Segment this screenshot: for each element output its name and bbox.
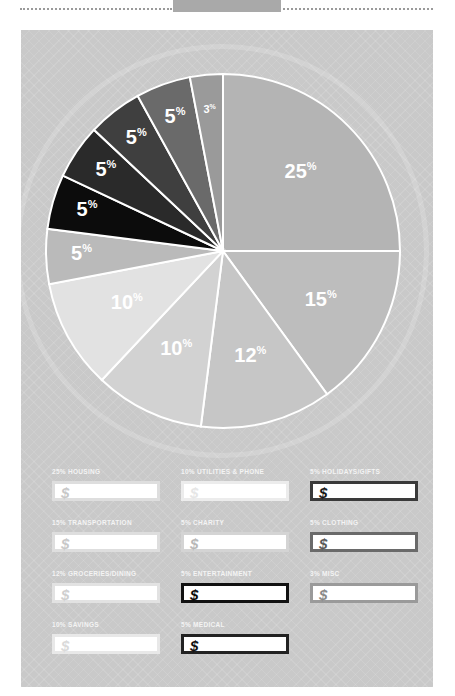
budget-field-holidays-gifts: 5% Holidays/Gifts$ [310, 467, 418, 501]
amount-input[interactable]: $ [181, 481, 289, 501]
amount-input[interactable]: $ [310, 532, 418, 552]
amount-input[interactable]: $ [310, 481, 418, 501]
budget-field-housing: 25% Housing$ [52, 467, 160, 501]
amount-input[interactable]: $ [52, 634, 160, 654]
budget-field-misc: 3% Misc$ [310, 569, 418, 603]
budget-field-groceries-dining: 12% Groceries/Dining$ [52, 569, 160, 603]
header-tab [173, 0, 281, 12]
field-label: 12% Groceries/Dining [52, 569, 160, 579]
budget-field-utilities-phone: 10% Utilities & Phone$ [181, 467, 289, 501]
header-dotted-rule-right [283, 8, 433, 10]
budget-field-charity: 5% Charity$ [181, 518, 289, 552]
dollar-sign-icon: $ [61, 483, 69, 503]
field-label: 15% Transportation [52, 518, 160, 528]
amount-input[interactable]: $ [181, 634, 289, 654]
dollar-sign-icon: $ [190, 585, 198, 605]
budget-field-entertainment: 5% Entertainment$ [181, 569, 289, 603]
field-label: 5% Medical [181, 620, 289, 630]
field-label: 5% Charity [181, 518, 289, 528]
dollar-sign-icon: $ [61, 636, 69, 656]
budget-field-medical: 5% Medical$ [181, 620, 289, 654]
dollar-sign-icon: $ [190, 636, 198, 656]
header-dotted-rule-left [20, 8, 172, 10]
amount-input[interactable]: $ [52, 532, 160, 552]
dollar-sign-icon: $ [319, 534, 327, 554]
budget-panel: 25%15%12%10%10%5%5%5%5%5%3% 25% Housing$… [21, 30, 433, 687]
amount-input[interactable]: $ [181, 583, 289, 603]
dollar-sign-icon: $ [319, 483, 327, 503]
field-label: 5% Holidays/Gifts [310, 467, 418, 477]
budget-field-clothing: 5% Clothing$ [310, 518, 418, 552]
budget-field-transportation: 15% Transportation$ [52, 518, 160, 552]
budget-pie-chart: 25%15%12%10%10%5%5%5%5%5%3% [21, 30, 433, 450]
dollar-sign-icon: $ [190, 534, 198, 554]
field-label: 5% Entertainment [181, 569, 289, 579]
dollar-sign-icon: $ [61, 534, 69, 554]
dollar-sign-icon: $ [190, 483, 198, 503]
amount-input[interactable]: $ [310, 583, 418, 603]
field-label: 10% Savings [52, 620, 160, 630]
dollar-sign-icon: $ [61, 585, 69, 605]
amount-input[interactable]: $ [52, 583, 160, 603]
field-label: 3% Misc [310, 569, 418, 579]
amount-input[interactable]: $ [181, 532, 289, 552]
budget-field-savings: 10% Savings$ [52, 620, 160, 654]
dollar-sign-icon: $ [319, 585, 327, 605]
field-label: 25% Housing [52, 467, 160, 477]
amount-input[interactable]: $ [52, 481, 160, 501]
field-label: 10% Utilities & Phone [181, 467, 289, 477]
field-label: 5% Clothing [310, 518, 418, 528]
